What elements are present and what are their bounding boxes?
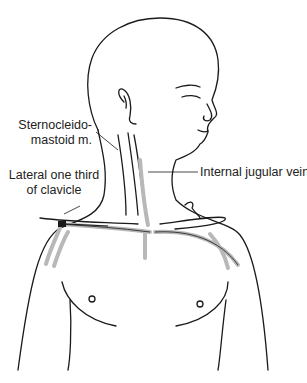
syringe-hub <box>58 221 66 227</box>
eye-icon <box>182 96 200 98</box>
nipple-left <box>89 296 95 302</box>
label-lateral-clavicle: Lateral one third of clavicle <box>6 168 102 198</box>
label-sternocleidomastoid-line2: mastoid m. <box>2 133 92 148</box>
internal-jugular-vein <box>140 160 148 225</box>
label-sternocleidomastoid: Sternocleido- mastoid m. <box>2 118 92 148</box>
label-lateral-clavicle-line1: Lateral one third <box>6 168 102 183</box>
clavicle-right <box>160 217 225 229</box>
leader-lateral-clavicle <box>64 206 80 214</box>
leader-sternocleidomastoid <box>96 132 118 150</box>
sternocleidomastoid-muscle <box>118 135 126 215</box>
label-internal-jugular: Internal jugular vein <box>200 165 307 180</box>
ear-icon <box>119 89 136 124</box>
nipple-right <box>197 301 203 307</box>
label-lateral-clavicle-line2: of clavicle <box>6 183 102 198</box>
label-sternocleidomastoid-line1: Sternocleido- <box>2 118 92 133</box>
head-outline <box>88 18 268 370</box>
mouth-icon <box>198 130 208 132</box>
clavicle-left <box>40 218 138 224</box>
pectoral-right <box>176 282 228 326</box>
nose-icon <box>203 104 211 121</box>
